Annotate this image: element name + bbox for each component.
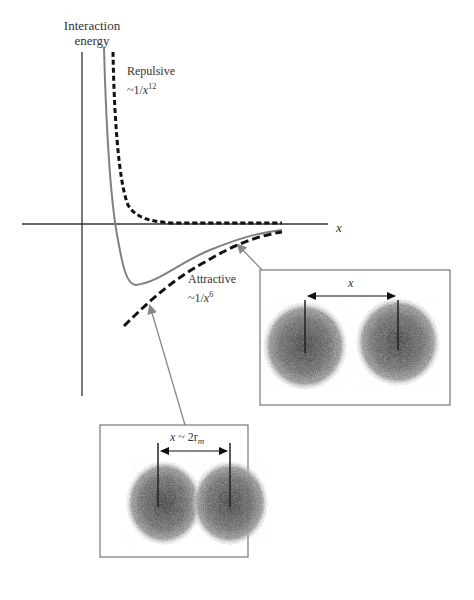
repulsive-formula: ~1/x12 (127, 79, 175, 98)
repulsive-label: Repulsive ~1/x12 (127, 64, 175, 98)
pointer-far (238, 245, 262, 270)
near-distance-label: x ~ 2rm (170, 430, 204, 449)
y-axis-label-line2: energy (52, 33, 132, 48)
y-axis-label-line1: Interaction (52, 18, 132, 33)
inset-far-separation (260, 270, 450, 405)
repulsive-name: Repulsive (127, 64, 175, 79)
energy-diagram (0, 0, 474, 600)
attractive-label: Attractive ~1/x6 (188, 272, 236, 306)
y-axis-label: Interaction energy (52, 18, 132, 48)
far-distance-label: x (348, 276, 353, 291)
attractive-formula: ~1/x6 (188, 287, 236, 306)
x-axis-label: x (336, 220, 342, 235)
pointer-near (150, 306, 185, 425)
attractive-name: Attractive (188, 272, 236, 287)
